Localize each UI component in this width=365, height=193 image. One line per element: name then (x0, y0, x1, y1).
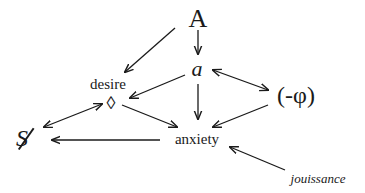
node-object-a: a (192, 58, 203, 80)
node-minus-phi: (-φ) (277, 83, 315, 107)
node-desire: desire (90, 77, 126, 92)
barred-s-glyph: S (16, 126, 28, 150)
edge-phi-to-anxiety (213, 105, 268, 127)
node-barred-subject: S (16, 126, 28, 150)
edge-jouissance-to-anxiety (230, 147, 285, 170)
edge-a-phi-bidirectional (213, 70, 268, 90)
node-big-other-A: A (189, 6, 208, 32)
edge-a-to-desire (130, 75, 185, 98)
node-anxiety: anxiety (175, 132, 219, 147)
node-lozenge-diamond: ◊ (107, 94, 116, 112)
edge-diamond-S-bidirectional (44, 104, 102, 127)
edge-diamond-to-anxiety (122, 105, 177, 127)
edge-A-to-desire (125, 28, 175, 72)
node-jouissance: jouissance (291, 172, 346, 185)
